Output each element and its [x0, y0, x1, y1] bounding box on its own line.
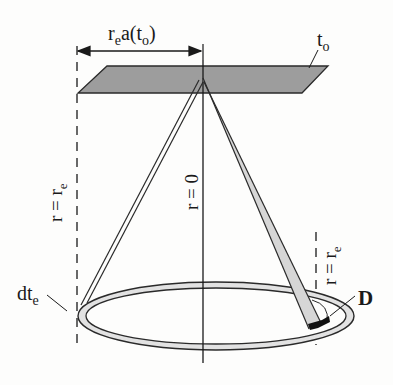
- dimension-arrow: [78, 44, 203, 60]
- label-left-axis: r = re: [45, 183, 70, 222]
- diagram-canvas: rea(to) to r = re r = 0 r = re dte D: [0, 0, 393, 385]
- label-right-axis: r = re: [319, 246, 344, 285]
- label-plane: to: [317, 28, 330, 54]
- label-dimension: rea(to): [108, 22, 156, 48]
- label-detector: D: [358, 286, 373, 310]
- leader-t-o: [309, 50, 318, 68]
- leader-dt-e: [47, 295, 67, 311]
- diagram-svg: rea(to) to r = re r = 0 r = re dte D: [0, 0, 393, 385]
- label-ring: dte: [17, 282, 39, 308]
- label-center-axis: r = 0: [181, 174, 202, 210]
